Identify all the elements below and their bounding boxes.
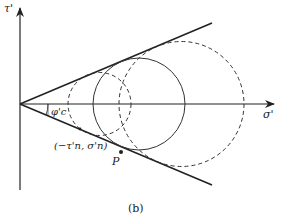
figure-caption: (b) [128, 202, 144, 215]
tangent-dot-small [79, 128, 82, 131]
point-p-label: P [112, 155, 119, 168]
sigma-axis-label: σ' [263, 108, 274, 121]
tau-axis-label: τ' [4, 2, 13, 15]
angle-label: φ'c [51, 106, 66, 117]
point-coordinate-label: (−τ'n, σ'n) [54, 140, 107, 151]
point-p-dot [119, 150, 123, 154]
mohr-diagram [0, 0, 288, 222]
